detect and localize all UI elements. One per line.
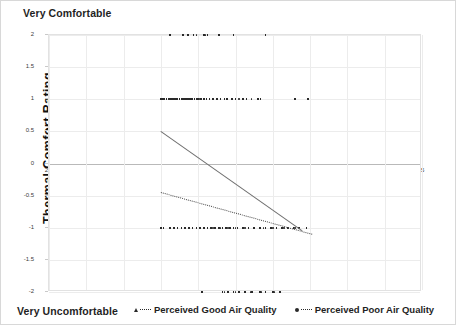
data-point	[260, 98, 262, 100]
data-point	[238, 291, 240, 293]
data-point	[188, 227, 190, 229]
data-point	[169, 34, 171, 36]
data-point	[203, 227, 205, 229]
data-point	[177, 227, 179, 229]
data-point	[259, 227, 261, 229]
data-point	[206, 98, 208, 100]
data-point	[163, 227, 165, 229]
gridline-horizontal	[49, 131, 420, 132]
plot-inner	[49, 35, 420, 290]
data-point	[220, 98, 222, 100]
gridline-horizontal	[49, 260, 420, 261]
data-point	[196, 227, 198, 229]
y-axis-tick-label: 0.5	[4, 127, 34, 133]
y-axis-tick-mark	[45, 291, 48, 292]
legend-item-label: Perceived Good Air Quality	[154, 304, 277, 315]
data-point	[198, 98, 200, 100]
data-point	[233, 34, 235, 36]
data-point	[244, 291, 246, 293]
legend-line-sample	[140, 309, 151, 310]
chart-frame: Very Comfortable Thermal Comfort Rating …	[0, 0, 456, 325]
data-point	[253, 227, 255, 229]
data-point	[306, 227, 308, 229]
gridline-vertical	[385, 35, 386, 290]
data-point	[187, 34, 189, 36]
data-point	[190, 98, 192, 100]
data-point	[279, 291, 281, 293]
data-point	[257, 98, 259, 100]
data-point	[209, 98, 211, 100]
legend-item-poor[interactable]: Perceived Poor Air Quality	[295, 304, 435, 315]
data-point	[222, 227, 224, 229]
data-point	[212, 98, 214, 100]
scale-top-label: Very Comfortable	[23, 7, 112, 19]
y-axis-tick-label: 1.5	[4, 63, 34, 69]
gridline-vertical	[86, 35, 87, 290]
data-point	[182, 34, 184, 36]
data-point	[272, 227, 274, 229]
data-point	[218, 34, 220, 36]
data-point	[199, 227, 201, 229]
gridline-vertical	[347, 35, 348, 290]
axis-zero-line	[49, 164, 420, 165]
data-point	[160, 227, 162, 229]
data-point	[216, 98, 218, 100]
legend-item-good[interactable]: Perceived Good Air Quality	[134, 304, 277, 315]
circle-marker-icon	[295, 308, 312, 312]
data-point	[248, 227, 250, 229]
data-point	[207, 34, 209, 36]
data-point	[265, 34, 267, 36]
trendline-series-0	[160, 131, 302, 231]
data-point	[196, 34, 198, 36]
data-point	[203, 98, 205, 100]
y-axis-tick-label: 1	[4, 95, 34, 101]
gridline-vertical	[310, 35, 311, 290]
data-point	[294, 98, 296, 100]
data-point	[244, 227, 246, 229]
data-point	[224, 291, 226, 293]
gridline-vertical	[124, 35, 125, 290]
data-point	[222, 291, 224, 293]
data-point	[200, 98, 202, 100]
scale-bottom-label: Very Uncomfortable	[17, 305, 118, 317]
triangle-glyph	[134, 308, 138, 312]
gridline-vertical	[422, 35, 423, 290]
data-point	[207, 227, 209, 229]
gridline-vertical	[49, 35, 50, 290]
data-point	[251, 98, 253, 100]
data-point	[227, 227, 229, 229]
gridline-horizontal	[49, 196, 420, 197]
gridline-vertical	[161, 35, 162, 290]
y-axis-tick-label: -1.5	[4, 256, 34, 262]
data-point	[246, 98, 248, 100]
gridline-vertical	[198, 35, 199, 290]
data-point	[193, 34, 195, 36]
data-point	[224, 98, 226, 100]
data-point	[169, 227, 171, 229]
data-point	[265, 291, 267, 293]
legend-line-sample	[301, 309, 312, 310]
data-point	[185, 98, 187, 100]
plot-area	[48, 34, 421, 291]
chart-legend: Perceived Good Air QualityPerceived Poor…	[134, 304, 434, 315]
data-point	[242, 98, 244, 100]
data-point	[212, 227, 214, 229]
data-point	[276, 227, 278, 229]
y-axis-tick-label: -1	[4, 224, 34, 230]
data-point	[235, 98, 237, 100]
data-point	[184, 227, 186, 229]
data-point	[192, 227, 194, 229]
data-point	[307, 98, 309, 100]
y-axis-tick-label: -2	[4, 288, 34, 294]
data-point	[201, 291, 203, 293]
data-point	[226, 98, 228, 100]
data-point	[251, 291, 253, 293]
data-point	[250, 291, 252, 293]
y-axis-tick-label: 0	[4, 160, 34, 166]
data-point	[227, 291, 229, 293]
triangle-marker-icon	[134, 308, 151, 312]
legend-item-label: Perceived Poor Air Quality	[315, 304, 435, 315]
data-point	[214, 227, 216, 229]
data-point	[173, 227, 175, 229]
gridline-vertical	[236, 35, 237, 290]
